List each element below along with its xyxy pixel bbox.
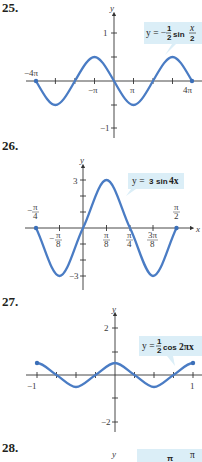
- y-tick-3: 3: [73, 176, 78, 186]
- svg-text:2: 2: [157, 346, 162, 355]
- x-tick-pi-2: π 2: [173, 202, 180, 221]
- x-axis-label: x: [195, 224, 200, 234]
- x-tick-neg-pi-4: − π 4: [27, 202, 39, 221]
- x-tick-4pi: 4π: [183, 85, 193, 95]
- svg-text:y =: y =: [142, 341, 154, 351]
- endpoint: [190, 79, 194, 83]
- x-tick-neg1: −1: [27, 381, 37, 391]
- svg-text:2πx: 2πx: [179, 342, 194, 352]
- svg-text:8: 8: [150, 239, 155, 249]
- endpoint: [34, 79, 38, 83]
- x-tick-pi-8: π 8: [103, 230, 110, 249]
- y-tick-neg2: −2: [101, 417, 111, 427]
- x-tick-neg-pi-8: − π 8: [49, 230, 62, 249]
- y-tick-2: 2: [104, 323, 109, 333]
- svg-text:y = −: y = −: [146, 28, 166, 38]
- svg-text:−: −: [49, 233, 54, 243]
- svg-text:cos: cos: [163, 343, 177, 352]
- svg-text:1: 1: [167, 24, 172, 33]
- x-tick-negpi: −π: [88, 85, 98, 95]
- graph-25: y 1 −1 −4π −π π 4π y = − 1 2 sin: [24, 3, 202, 138]
- equation-fragment: π: [190, 450, 195, 460]
- graph-27: y 2 −2 −1 1 y = 1 2 cos 2πx: [26, 304, 202, 432]
- endpoint: [34, 226, 38, 230]
- y-axis-label: y: [111, 304, 116, 314]
- svg-text:2: 2: [190, 34, 195, 43]
- svg-text:1: 1: [157, 337, 162, 346]
- graphs-canvas: y 1 −1 −4π −π π 4π y = − 1 2 sin: [0, 0, 202, 462]
- equation-fragment: π: [167, 454, 173, 462]
- graph-28: y π π: [111, 449, 202, 462]
- y-tick-1: 1: [103, 28, 108, 38]
- svg-text:2: 2: [167, 33, 172, 42]
- endpoint: [191, 361, 195, 365]
- x-tick-1: 1: [190, 381, 195, 391]
- equation-callout-26: y = 3 sin 4x: [126, 173, 184, 196]
- svg-text:4: 4: [127, 239, 132, 249]
- svg-text:2: 2: [174, 211, 179, 221]
- endpoint: [174, 226, 178, 230]
- x-tick-neg4pi: −4π: [24, 68, 39, 78]
- svg-text:8: 8: [104, 239, 109, 249]
- endpoint: [35, 361, 39, 365]
- svg-text:3: 3: [149, 177, 154, 186]
- svg-text:y =: y =: [132, 176, 144, 186]
- svg-text:8: 8: [56, 239, 61, 249]
- graph-26: x y 3 −3 − π 4 − π 8 π 8: [25, 155, 200, 290]
- y-tick-neg1: −1: [100, 123, 110, 133]
- y-tick-neg3: −3: [69, 271, 79, 281]
- y-axis-label: y: [111, 449, 116, 459]
- svg-text:sin: sin: [173, 30, 185, 39]
- svg-text:x: x: [189, 23, 195, 33]
- svg-text:sin: sin: [156, 177, 168, 186]
- svg-text:4x: 4x: [169, 176, 179, 186]
- y-axis-label: y: [79, 155, 84, 165]
- svg-text:−: −: [27, 205, 32, 215]
- x-tick-3pi-8: 3π 8: [147, 230, 158, 249]
- svg-text:4: 4: [33, 211, 38, 221]
- y-axis-label: y: [109, 3, 114, 13]
- equation-callout-25: y = − 1 2 sin x 2: [144, 22, 202, 55]
- x-tick-pi: π: [130, 85, 135, 95]
